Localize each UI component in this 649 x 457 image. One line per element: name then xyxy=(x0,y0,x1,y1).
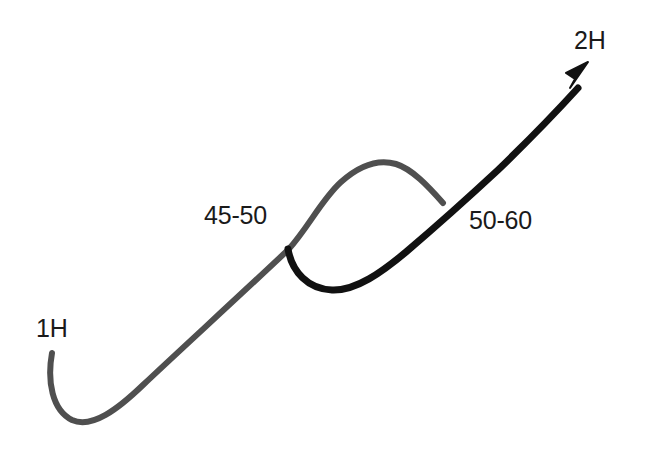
label-start-1h: 1H xyxy=(36,316,68,341)
label-range-45-50: 45-50 xyxy=(204,203,267,228)
label-end-2h: 2H xyxy=(574,28,606,53)
label-range-50-60: 50-60 xyxy=(469,208,532,233)
diagram-background xyxy=(0,0,649,457)
diagram-canvas: 1H 2H 45-50 50-60 xyxy=(0,0,649,457)
growth-loop-diagram xyxy=(0,0,649,457)
